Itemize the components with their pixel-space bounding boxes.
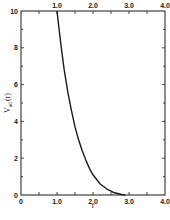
x-tick-label-top: 4.0 bbox=[160, 2, 170, 9]
x-tick-label-bottom: 4.0 bbox=[160, 198, 170, 205]
plot-frame bbox=[21, 11, 165, 195]
svg-text:Vad(r): Vad(r) bbox=[3, 93, 13, 113]
y-tick-label: 2 bbox=[14, 155, 18, 162]
y-tick-label: 6 bbox=[14, 81, 18, 88]
y-tick-label: 8 bbox=[14, 44, 18, 51]
y-tick-label: 10 bbox=[10, 8, 18, 15]
x-axis-label: r bbox=[92, 201, 95, 210]
y-tick-label: 4 bbox=[14, 118, 18, 125]
x-tick-label-top: 3.0 bbox=[124, 2, 134, 9]
x-tick-label-bottom: 0 bbox=[19, 198, 23, 205]
x-tick-label-top: 1.0 bbox=[52, 2, 62, 9]
chart: 01.02.03.04.01.02.03.04.00246810 r Vad(r… bbox=[0, 0, 170, 220]
axis-ticks bbox=[21, 11, 165, 195]
tick-labels: 01.02.03.04.01.02.03.04.00246810 bbox=[10, 2, 170, 205]
x-tick-label-bottom: 3.0 bbox=[124, 198, 134, 205]
y-axis-label: Vad(r) bbox=[3, 93, 13, 113]
x-tick-label-top: 2.0 bbox=[88, 2, 98, 9]
y-tick-label: 0 bbox=[14, 192, 18, 199]
data-curve bbox=[57, 11, 125, 195]
x-tick-label-bottom: 1.0 bbox=[52, 198, 62, 205]
